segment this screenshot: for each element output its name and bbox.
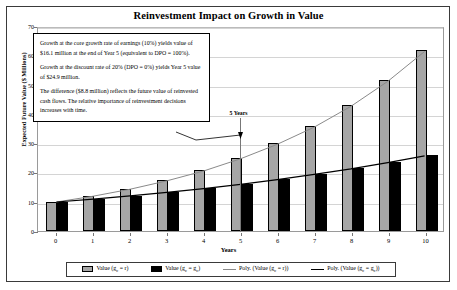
x-axis-tick-mark [204,233,205,236]
x-axis-tick-mark [426,233,427,236]
legend-item[interactable]: Poly. (Value (gc = r)) [223,265,288,273]
x-axis-tick-label: 8 [350,237,353,244]
legend-swatch-gray-bar [82,266,93,272]
x-axis-tick-mark [352,233,353,236]
x-axis-tick-mark [315,233,316,236]
legend-label: Value (gc = gc) [165,265,200,273]
annotation-textbox: Growth at the core growth rate of earnin… [33,33,210,122]
x-axis-tick-label: 7 [313,237,316,244]
x-axis-tick-label: 9 [387,237,390,244]
x-axis-tick-label: 1 [91,237,94,244]
chart-legend: Value (gc = r)Value (gc = gc)Poly. (Valu… [66,262,396,277]
x-axis-tick-mark [56,233,57,236]
x-axis-tick-label: 6 [276,237,279,244]
x-axis-tick-label: 5 [239,237,242,244]
x-axis-tick-label: 2 [128,237,131,244]
annotation-paragraph-3: The difference ($8.8 million) reflects t… [40,87,203,116]
x-axis-ticks: 012345678910 [37,233,444,247]
y-axis-tick-label: 0 [8,229,34,235]
legend-swatch-black-bar [151,266,162,272]
legend-label: Poly. (Value (gc = gc)) [327,265,379,273]
x-axis-tick-mark [241,233,242,236]
x-axis-tick-label: 3 [165,237,168,244]
trend-line-gc-equals-gc [56,156,424,202]
chart-screenshot: Reinvestment Impact on Growth in Value 0… [0,0,457,290]
y-axis-tick-label: 10 [8,200,34,206]
x-axis-tick-mark [389,233,390,236]
chart-title: Reinvestment Impact on Growth in Value [0,10,457,21]
annotation-paragraph-2: Growth at the discount rate of 20% (DPO … [40,63,203,82]
y-axis-title: Expected Future Value ($ Millions) [20,30,27,170]
legend-swatch-gray-line [223,269,236,270]
five-years-label: 5 Years [230,110,248,116]
x-axis-tick-label: 10 [422,237,429,244]
x-axis-tick-label: 4 [202,237,205,244]
legend-item[interactable]: Poly. (Value (gc = gc)) [311,265,379,273]
x-axis-tick-mark [130,233,131,236]
legend-item[interactable]: Value (gc = gc) [151,265,200,273]
x-axis-tick-mark [93,233,94,236]
legend-label: Poly. (Value (gc = r)) [239,265,288,273]
x-axis-tick-mark [167,233,168,236]
legend-label: Value (gc = r) [96,265,128,273]
y-axis-tick-label: 20 [8,170,34,176]
x-axis-title: Years [0,246,457,253]
legend-item[interactable]: Value (gc = r) [82,265,128,273]
x-axis-tick-mark [278,233,279,236]
x-axis-tick-label: 0 [54,237,57,244]
legend-swatch-black-line [311,269,324,270]
annotation-paragraph-1: Growth at the core growth rate of earnin… [40,39,203,58]
